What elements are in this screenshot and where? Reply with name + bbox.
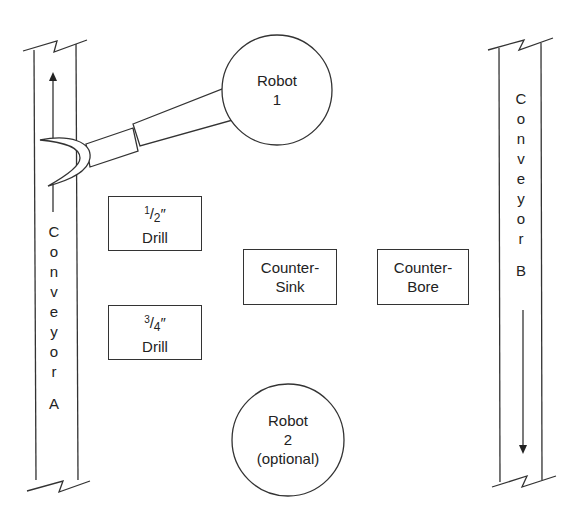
conveyor-a-letter: y — [44, 322, 64, 342]
conveyor-a-letter: v — [44, 282, 64, 302]
conveyor-a-arrow-up-icon — [49, 72, 57, 81]
fraction-denominator: 2 — [154, 211, 161, 225]
inch-mark: ″ — [161, 314, 166, 331]
robot1-arm-forearm — [86, 128, 138, 167]
conveyor-b-left-rail — [499, 48, 500, 482]
conveyor-a-letter: C — [44, 222, 64, 242]
drill-label: Drill — [142, 337, 168, 356]
fraction-numerator: 1 — [144, 205, 150, 216]
inch-mark: ″ — [161, 205, 166, 222]
conveyor-a-label: C o n v e y o r A — [44, 222, 64, 414]
conveyor-b-letter: n — [511, 129, 531, 149]
station-countersink: Counter- Sink — [243, 249, 337, 305]
robot1-gripper-icon — [40, 138, 90, 186]
robot2-label: Robot 2 (optional) — [238, 411, 338, 468]
conveyor-b-letter: o — [511, 209, 531, 229]
conveyor-b-top-break-icon — [488, 38, 553, 50]
conveyor-a-letter: o — [44, 242, 64, 262]
conveyor-a-letter: r — [44, 362, 64, 382]
conveyor-a-letter: n — [44, 262, 64, 282]
conveyor-a-id: A — [44, 394, 64, 414]
countersink-line2: Sink — [275, 277, 304, 296]
conveyor-b-letter: e — [511, 169, 531, 189]
conveyor-a-letter: o — [44, 342, 64, 362]
conveyor-b-right-rail — [541, 43, 542, 480]
robot1-label: Robot 1 — [237, 71, 317, 109]
station-three-quarter-inch-drill: 3/4″ Drill — [108, 305, 202, 360]
conveyor-b-label: C o n v e y o r B — [511, 89, 531, 281]
drill-label: Drill — [142, 228, 168, 247]
conveyor-b-letter: y — [511, 189, 531, 209]
conveyor-a-left-rail — [34, 50, 36, 480]
conveyor-b-letter: v — [511, 149, 531, 169]
countersink-line1: Counter- — [261, 258, 319, 277]
conveyor-a-letter: e — [44, 302, 64, 322]
station-counterbore: Counter- Bore — [377, 249, 469, 305]
robot2-label-line2: 2 — [238, 430, 338, 449]
conveyor-a-bottom-break-icon — [27, 481, 90, 492]
robot1-arm — [86, 84, 240, 167]
conveyor-b-bottom-break-icon — [492, 476, 556, 487]
conveyor-a-top-break-icon — [23, 40, 87, 52]
counterbore-line1: Counter- — [394, 258, 452, 277]
conveyor-b-letter: o — [511, 109, 531, 129]
fraction-numerator: 3 — [144, 314, 150, 325]
conveyor-b-letter: C — [511, 89, 531, 109]
robot2-label-line3: (optional) — [238, 449, 338, 468]
counterbore-line2: Bore — [407, 277, 439, 296]
conveyor-b-arrow-down-icon — [519, 445, 527, 454]
drill-size-three-quarter: 3/4″ — [144, 310, 166, 337]
conveyor-b-letter: r — [511, 229, 531, 249]
robot2-label-line1: Robot — [238, 411, 338, 430]
fraction-denominator: 4 — [154, 320, 161, 334]
station-half-inch-drill: 1/2″ Drill — [108, 196, 202, 251]
conveyor-b-id: B — [511, 261, 531, 281]
conveyor-a-right-rail — [76, 44, 78, 480]
robot1-label-line1: Robot — [237, 71, 317, 90]
drill-size-half: 1/2″ — [144, 201, 166, 228]
robot1-label-line2: 1 — [237, 90, 317, 109]
